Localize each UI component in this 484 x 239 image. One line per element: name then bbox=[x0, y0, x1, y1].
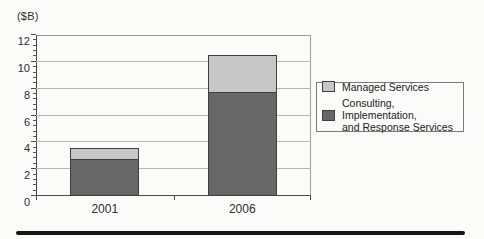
y-minor-tick bbox=[33, 163, 36, 164]
bar-2006 bbox=[208, 55, 277, 196]
bottom-horizontal-rule bbox=[16, 231, 465, 235]
y-minor-tick bbox=[33, 45, 36, 46]
y-tick-6 bbox=[31, 115, 36, 116]
legend-label-consulting-services: Consulting, Implementation, and Response… bbox=[342, 97, 458, 133]
y-minor-tick bbox=[33, 184, 36, 185]
stacked-bar-chart-figure: ($B) 024681012 Managed Services Consulti… bbox=[0, 0, 484, 239]
legend-item-managed-services: Managed Services bbox=[322, 81, 458, 93]
legend-swatch-managed-services bbox=[322, 81, 335, 92]
y-minor-tick bbox=[33, 174, 36, 175]
y-minor-tick bbox=[33, 179, 36, 180]
y-tick-2 bbox=[31, 168, 36, 169]
x-tick-0 bbox=[36, 196, 37, 200]
y-minor-tick bbox=[33, 190, 36, 191]
y-tick-label-2: 2 bbox=[24, 169, 30, 181]
y-minor-tick bbox=[33, 125, 36, 126]
y-minor-tick bbox=[33, 98, 36, 99]
y-minor-tick bbox=[33, 55, 36, 56]
y-minor-tick bbox=[33, 82, 36, 83]
y-tick-12 bbox=[31, 34, 36, 35]
bar-segment-2001-consulting bbox=[70, 160, 139, 196]
bar-segment-2006-managed bbox=[208, 55, 277, 93]
y-minor-tick bbox=[33, 93, 36, 94]
bar-2001 bbox=[70, 148, 139, 196]
y-minor-tick bbox=[33, 136, 36, 137]
plot-area bbox=[36, 35, 311, 196]
y-minor-tick bbox=[33, 66, 36, 67]
x-tick-2 bbox=[310, 196, 311, 200]
y-minor-tick bbox=[33, 147, 36, 148]
legend-label-managed-services: Managed Services bbox=[342, 81, 429, 93]
y-tick-label-4: 4 bbox=[24, 142, 30, 154]
y-tick-10 bbox=[31, 61, 36, 62]
plot-border-right bbox=[310, 35, 311, 196]
y-tick-label-8: 8 bbox=[24, 89, 30, 101]
y-tick-4 bbox=[31, 141, 36, 142]
y-axis-line bbox=[36, 35, 37, 196]
bar-segment-2001-managed bbox=[70, 148, 139, 160]
y-tick-label-10: 10 bbox=[18, 62, 30, 74]
bar-segment-2006-consulting bbox=[208, 93, 277, 196]
x-axis-label-2001: 2001 bbox=[91, 202, 118, 216]
y-minor-tick bbox=[33, 157, 36, 158]
x-tick-1 bbox=[174, 196, 175, 200]
plot-border-top bbox=[36, 35, 311, 36]
y-tick-8 bbox=[31, 88, 36, 89]
y-minor-tick bbox=[33, 72, 36, 73]
y-minor-tick bbox=[33, 104, 36, 105]
y-tick-label-0: 0 bbox=[24, 196, 30, 208]
legend-swatch-consulting-services bbox=[322, 110, 335, 121]
y-minor-tick bbox=[33, 50, 36, 51]
y-minor-tick bbox=[33, 152, 36, 153]
y-tick-label-6: 6 bbox=[24, 116, 30, 128]
y-minor-tick bbox=[33, 131, 36, 132]
y-minor-tick bbox=[33, 109, 36, 110]
y-axis-unit-label: ($B) bbox=[17, 10, 39, 22]
legend-item-consulting-services: Consulting, Implementation, and Response… bbox=[322, 97, 458, 133]
y-axis-tick-labels: 024681012 bbox=[0, 35, 30, 196]
y-tick-label-12: 12 bbox=[18, 35, 30, 47]
y-minor-tick bbox=[33, 120, 36, 121]
y-minor-tick bbox=[33, 39, 36, 40]
y-minor-tick bbox=[33, 77, 36, 78]
x-axis-label-2006: 2006 bbox=[229, 202, 256, 216]
legend: Managed Services Consulting, Implementat… bbox=[316, 82, 464, 132]
